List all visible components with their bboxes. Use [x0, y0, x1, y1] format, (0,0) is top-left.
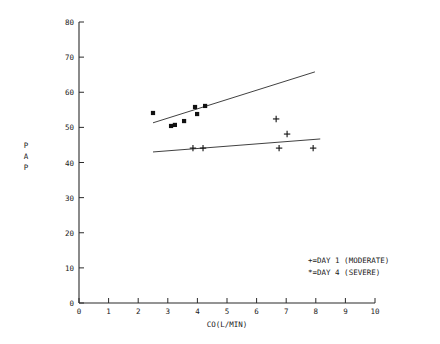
- y-tick-label: 80: [65, 18, 75, 27]
- plot-canvas: 01020304050607080 012345678910 PAP CO(L/…: [0, 0, 440, 344]
- plot-background: [0, 0, 440, 344]
- y-tick-label: 30: [65, 194, 75, 203]
- y-axis-title-char: P: [24, 163, 29, 172]
- data-point-square: [169, 124, 173, 128]
- y-tick-label: 20: [65, 229, 75, 238]
- x-tick-label: 9: [343, 307, 348, 316]
- data-point-square: [203, 104, 207, 108]
- data-point-square: [151, 111, 155, 115]
- scatter-plot-figure: 01020304050607080 012345678910 PAP CO(L/…: [0, 0, 440, 344]
- data-point-square: [173, 123, 177, 127]
- x-axis-title: CO(L/MIN): [207, 320, 248, 329]
- y-tick-label: 50: [65, 123, 75, 132]
- y-axis-title-char: P: [24, 141, 29, 150]
- y-tick-label: 10: [65, 264, 75, 273]
- x-tick-label: 1: [106, 307, 111, 316]
- legend-item-day1: +=DAY 1 (MODERATE): [308, 256, 389, 265]
- x-tick-label: 10: [370, 307, 380, 316]
- data-point-square: [195, 112, 199, 116]
- data-point-square: [182, 119, 186, 123]
- y-tick-label: 0: [69, 299, 74, 308]
- data-point-square: [193, 105, 197, 109]
- y-tick-label: 70: [65, 53, 75, 62]
- x-tick-label: 0: [77, 307, 82, 316]
- x-tick-label: 8: [314, 307, 319, 316]
- legend-item-day4: *=DAY 4 (SEVERE): [308, 268, 380, 277]
- x-tick-label: 4: [195, 307, 200, 316]
- x-tick-label: 6: [254, 307, 259, 316]
- y-tick-label: 60: [65, 88, 75, 97]
- x-tick-label: 3: [166, 307, 171, 316]
- y-tick-label: 40: [65, 159, 75, 168]
- y-axis-title: PAP: [24, 141, 29, 172]
- x-tick-label: 2: [136, 307, 141, 316]
- x-tick-label: 5: [225, 307, 230, 316]
- y-axis-title-char: A: [24, 152, 29, 161]
- x-tick-label: 7: [284, 307, 289, 316]
